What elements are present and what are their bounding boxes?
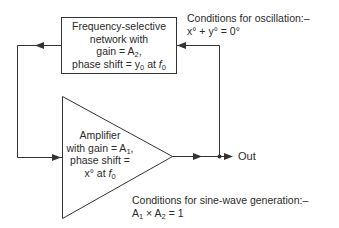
- oscillation-title: Conditions for oscillation:–: [187, 12, 310, 25]
- sinewave-title: Conditions for sine-wave generation:–: [132, 194, 308, 207]
- sinewave-equation: A1 × A2 = 1: [132, 207, 308, 220]
- network-line1: Frequency-selective: [62, 20, 176, 33]
- out-arrow-icon: [224, 153, 233, 160]
- sinewave-conditions: Conditions for sine-wave generation:– A1…: [132, 194, 308, 219]
- amplifier-label: Amplifier with gain = A1, phase shift = …: [62, 129, 138, 179]
- network-phase: phase shift = y0 at f0: [62, 58, 176, 71]
- amplifier-line1: Amplifier: [62, 129, 138, 142]
- feedback-left-arrow-icon: [35, 42, 44, 49]
- output-arrow-mid-icon: [193, 153, 202, 160]
- amplifier-phase: phase shift =: [62, 154, 138, 167]
- network-gain: gain = A2,: [62, 45, 176, 58]
- network-input-arrow-icon: [177, 42, 186, 49]
- oscillation-conditions: Conditions for oscillation:– x° + y° = 0…: [187, 12, 310, 37]
- network-line2: network with: [62, 33, 176, 46]
- amplifier-gain: with gain = A1,: [62, 142, 138, 155]
- oscillation-equation: x° + y° = 0°: [187, 25, 310, 38]
- output-label: Out: [238, 150, 256, 163]
- amplifier-phase-value: x° at f0: [62, 167, 138, 180]
- network-block-label: Frequency-selective network with gain = …: [62, 20, 176, 70]
- amplifier-input-arrow-icon: [52, 154, 61, 161]
